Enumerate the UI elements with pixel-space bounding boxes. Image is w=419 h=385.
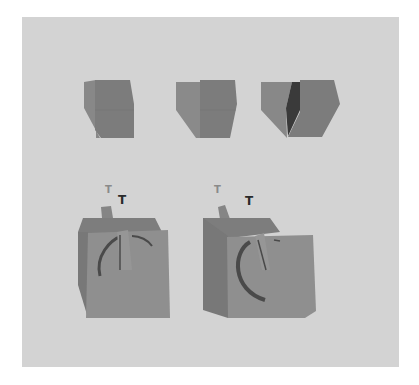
cube-3	[261, 80, 340, 138]
dial-block-1: T T	[78, 184, 170, 318]
cube-2	[176, 80, 237, 138]
label-t-dark-1: T	[118, 193, 127, 207]
figure-canvas: T T T T	[0, 0, 419, 385]
label-t-light-1: T	[105, 184, 112, 195]
label-t-light-2: T	[214, 184, 221, 195]
cube-1	[84, 80, 134, 138]
label-t-dark-2: T	[245, 194, 254, 208]
dial-block-2: T T	[203, 184, 316, 318]
